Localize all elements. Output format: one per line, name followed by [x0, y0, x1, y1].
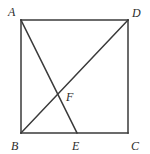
segment-AE	[21, 20, 77, 133]
vertex-label-b: B	[11, 139, 19, 153]
vertex-label-d: D	[131, 6, 141, 20]
segment-BD	[21, 20, 128, 133]
vertex-label-c: C	[131, 139, 140, 153]
geometry-figure: ADBCEF	[0, 0, 150, 154]
vertex-label-e: E	[71, 139, 80, 153]
vertex-label-a: A	[7, 5, 16, 19]
geometry-canvas: ADBCEF	[0, 0, 150, 154]
vertex-label-f: F	[65, 90, 74, 104]
segments-group	[21, 20, 128, 133]
